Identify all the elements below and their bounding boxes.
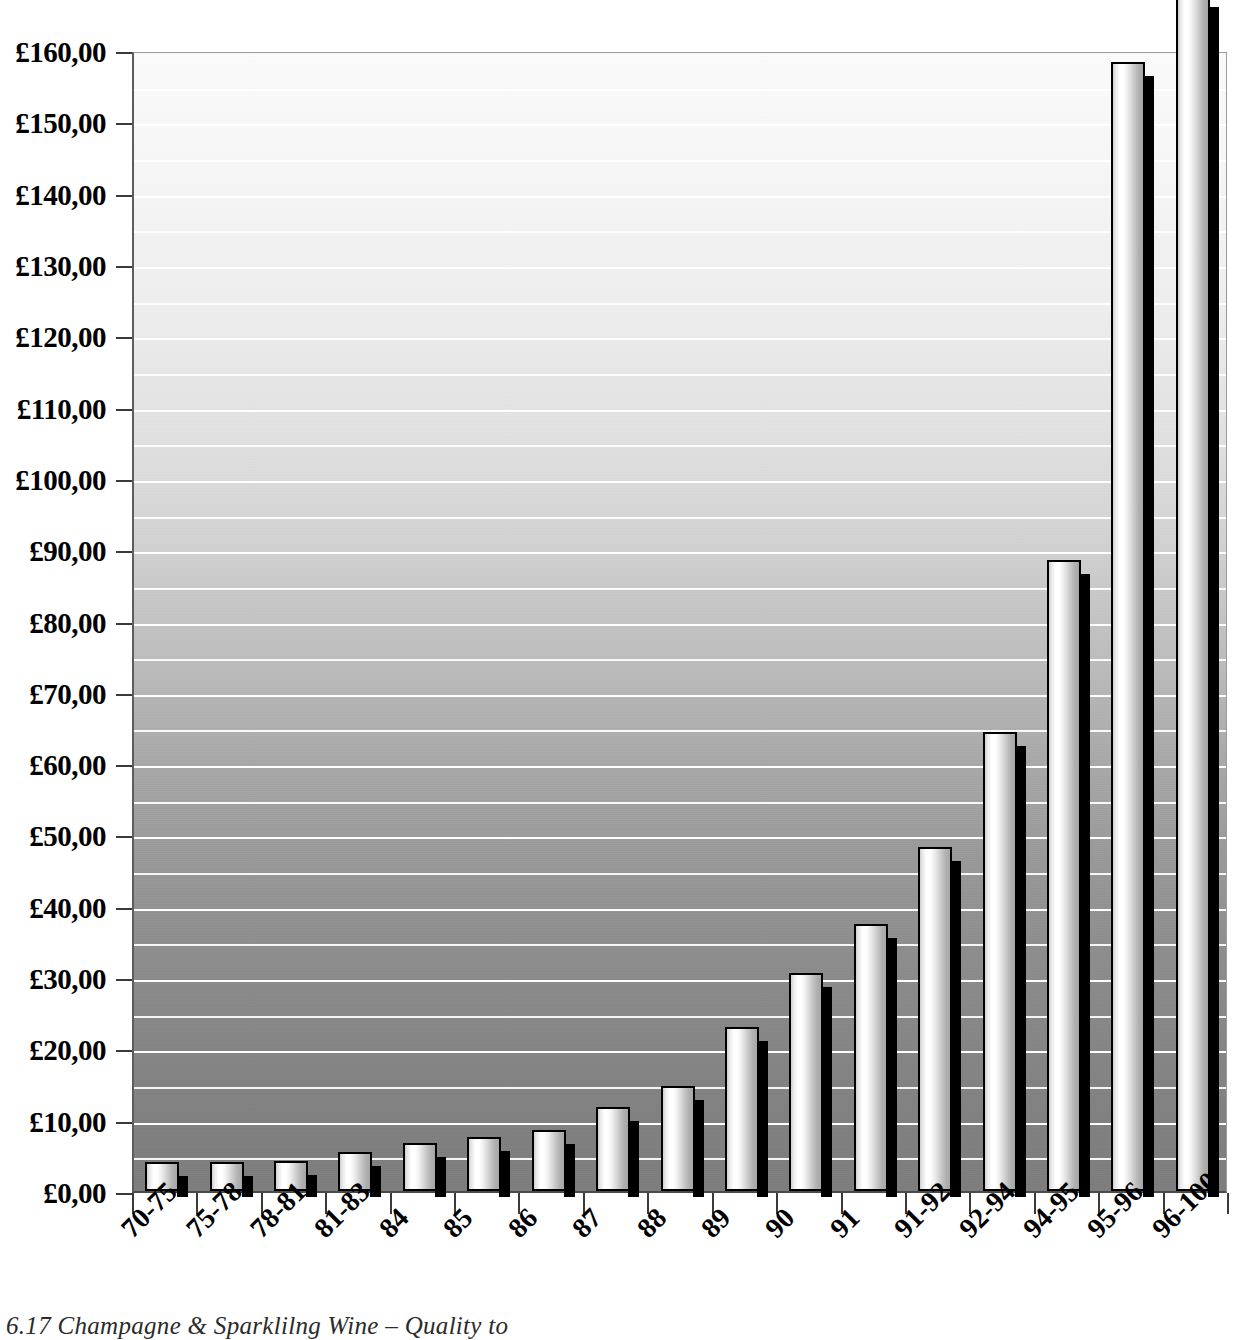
- bar-96-100[interactable]: [1176, 0, 1210, 1191]
- bar-85[interactable]: [467, 1137, 501, 1191]
- bar-87[interactable]: [596, 1107, 630, 1191]
- y-axis-tick-mark: [116, 337, 132, 339]
- bar-91[interactable]: [854, 924, 888, 1191]
- bar-86[interactable]: [532, 1130, 566, 1191]
- y-axis-tick-mark: [116, 409, 132, 411]
- y-axis-tick-mark: [116, 765, 132, 767]
- x-axis-tick-mark: [1227, 1193, 1229, 1214]
- y-axis-tick-mark: [116, 123, 132, 125]
- bar-body[interactable]: [725, 1027, 759, 1191]
- bar-body[interactable]: [661, 1086, 695, 1191]
- bar-body[interactable]: [918, 847, 952, 1191]
- bar-body[interactable]: [854, 924, 888, 1191]
- y-axis-tick-label: £130,00: [15, 251, 106, 280]
- y-axis-tick-label: £120,00: [15, 323, 106, 352]
- y-axis-tick-mark: [116, 480, 132, 482]
- y-axis-tick-mark: [116, 1050, 132, 1052]
- y-axis-tick-label: £100,00: [15, 465, 106, 494]
- bar-series: [134, 53, 1226, 1191]
- y-axis-tick-mark: [116, 52, 132, 54]
- y-axis-tick-mark: [116, 266, 132, 268]
- y-axis-tick-label: £160,00: [15, 38, 106, 67]
- y-axis-tick-label: £60,00: [29, 751, 106, 780]
- y-axis-tick-mark: [116, 1122, 132, 1124]
- bar-body[interactable]: [983, 732, 1017, 1191]
- y-axis-tick-label: £140,00: [15, 180, 106, 209]
- y-axis-tick-mark: [116, 836, 132, 838]
- bar-body[interactable]: [1111, 62, 1145, 1191]
- bar-92-94[interactable]: [983, 732, 1017, 1191]
- y-axis-tick-label: £90,00: [29, 537, 106, 566]
- bar-88[interactable]: [661, 1086, 695, 1191]
- y-axis-tick-label: £110,00: [17, 394, 106, 423]
- plot-area: [132, 52, 1227, 1193]
- y-axis-tick-mark: [116, 1193, 132, 1195]
- y-axis-tick-label: £70,00: [29, 679, 106, 708]
- bar-89[interactable]: [725, 1027, 759, 1191]
- bar-91-92[interactable]: [918, 847, 952, 1191]
- y-axis-tick-label: £80,00: [29, 608, 106, 637]
- y-axis-tick-mark: [116, 623, 132, 625]
- y-axis-tick-mark: [116, 694, 132, 696]
- bar-body[interactable]: [532, 1130, 566, 1191]
- y-axis-tick-label: £0,00: [43, 1179, 106, 1208]
- bar-94-95[interactable]: [1047, 560, 1081, 1191]
- bar-body[interactable]: [467, 1137, 501, 1191]
- y-axis-tick-mark: [116, 908, 132, 910]
- y-axis-tick-label: £150,00: [15, 109, 106, 138]
- y-axis-tick-mark: [116, 979, 132, 981]
- bar-84[interactable]: [403, 1143, 437, 1191]
- y-axis-tick-label: £50,00: [29, 822, 106, 851]
- y-axis-labels: £160,00£150,00£140,00£130,00£120,00£110,…: [0, 0, 128, 1332]
- bar-body[interactable]: [403, 1143, 437, 1191]
- y-axis-tick-label: £10,00: [29, 1107, 106, 1136]
- y-axis-tick-mark: [116, 551, 132, 553]
- bar-body[interactable]: [789, 973, 823, 1191]
- bar-95-96[interactable]: [1111, 62, 1145, 1191]
- x-axis-labels: 70-7575-7878-8181-83848586878889909191-9…: [0, 1215, 1248, 1315]
- bar-body[interactable]: [596, 1107, 630, 1191]
- y-axis-tick-mark: [116, 195, 132, 197]
- bar-body[interactable]: [1176, 0, 1210, 1191]
- y-axis-tick-label: £30,00: [29, 965, 106, 994]
- bar-90[interactable]: [789, 973, 823, 1191]
- figure-caption: 6.17 Champagne & Sparklilng Wine – Quali…: [6, 1312, 1206, 1340]
- y-axis-tick-label: £20,00: [29, 1036, 106, 1065]
- bar-body[interactable]: [1047, 560, 1081, 1191]
- y-axis-tick-label: £40,00: [29, 893, 106, 922]
